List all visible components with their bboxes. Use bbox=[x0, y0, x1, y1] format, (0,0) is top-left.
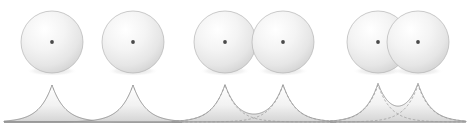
density-sum-envelope bbox=[172, 85, 336, 122]
figure-canvas bbox=[0, 0, 470, 131]
panels-layer bbox=[4, 11, 466, 122]
nucleus-dot bbox=[281, 40, 285, 44]
nucleus-dot bbox=[50, 40, 54, 44]
sphere-left bbox=[194, 11, 256, 73]
sphere-right bbox=[252, 11, 314, 73]
nucleus-dot bbox=[223, 40, 227, 44]
sphere-right bbox=[387, 11, 449, 73]
nucleus-dot bbox=[416, 40, 420, 44]
nucleus-dot bbox=[376, 40, 380, 44]
nucleus-dot bbox=[131, 40, 135, 44]
orbital-overlap-figure bbox=[0, 0, 470, 131]
sphere-left bbox=[21, 11, 83, 73]
panel-panel-overlapping bbox=[330, 11, 466, 122]
sphere-right bbox=[102, 11, 164, 73]
panel-panel-separated bbox=[4, 11, 182, 122]
panel-panel-tangent bbox=[172, 11, 336, 122]
density-sum-envelope bbox=[330, 83, 466, 122]
